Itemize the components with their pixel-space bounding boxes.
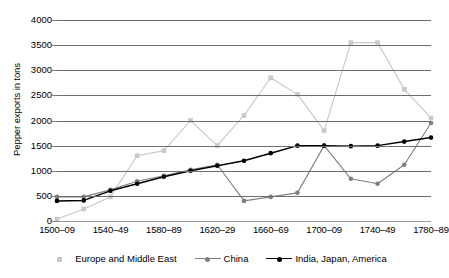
y-axis-tick-label: 1000 xyxy=(14,166,52,176)
data-point xyxy=(375,182,380,187)
x-axis-tick-label: 1620–29 xyxy=(199,224,235,235)
y-axis-tick-mark xyxy=(52,146,57,147)
x-axis-tick-label: 1580–89 xyxy=(146,224,182,235)
y-axis-tick-mark xyxy=(52,70,57,71)
data-point xyxy=(81,198,86,203)
gridline xyxy=(57,121,431,122)
data-point xyxy=(108,189,113,194)
data-point xyxy=(242,199,247,204)
data-point xyxy=(402,87,407,92)
data-point xyxy=(268,75,273,80)
x-axis-tick-labels: 1500–091540–491580–891620–291660–691700–… xyxy=(57,224,431,238)
legend-swatch-icon xyxy=(195,254,221,264)
series-line xyxy=(57,43,431,219)
data-point xyxy=(135,153,140,158)
y-axis-tick-labels: 05001000150020002500300035004000 xyxy=(12,0,52,278)
data-point xyxy=(322,128,327,133)
y-axis-tick-label: 3000 xyxy=(14,66,52,76)
data-point xyxy=(81,207,86,212)
x-axis-tick-label: 1780–89 xyxy=(413,224,449,235)
y-axis-tick-label: 3500 xyxy=(14,40,52,50)
y-axis-tick-mark xyxy=(52,171,57,172)
gridline xyxy=(57,20,431,21)
y-axis-tick-mark xyxy=(52,95,57,96)
gridline xyxy=(57,221,431,222)
data-point xyxy=(55,199,60,204)
x-axis-tick-label: 1500–09 xyxy=(39,224,75,235)
data-point xyxy=(268,151,273,156)
gridline xyxy=(57,70,431,71)
data-point xyxy=(429,135,434,140)
plot-area xyxy=(57,20,431,221)
gridline xyxy=(57,45,431,46)
legend-item[interactable]: India, Japan, America xyxy=(266,253,386,264)
data-point xyxy=(295,191,300,196)
data-point xyxy=(135,182,140,187)
y-axis-tick-label: 4000 xyxy=(14,15,52,25)
data-point xyxy=(162,148,167,153)
gridline xyxy=(57,171,431,172)
y-axis-tick-mark xyxy=(52,121,57,122)
data-point xyxy=(402,162,407,167)
x-axis-tick-label: 1740–49 xyxy=(360,224,396,235)
data-point xyxy=(349,176,354,181)
data-point xyxy=(242,158,247,163)
data-point xyxy=(215,163,220,168)
legend-item[interactable]: Europe and Middle East xyxy=(46,253,176,264)
gridline xyxy=(57,196,431,197)
legend-swatch-icon xyxy=(266,254,292,264)
chart-legend: Europe and Middle EastChinaIndia, Japan,… xyxy=(0,253,433,264)
data-point xyxy=(402,139,407,144)
legend-label: Europe and Middle East xyxy=(75,253,176,264)
y-axis-tick-mark xyxy=(52,45,57,46)
y-axis-tick-mark xyxy=(52,20,57,21)
data-point xyxy=(242,113,247,118)
y-axis-tick-label: 2500 xyxy=(14,91,52,101)
gridline xyxy=(57,95,431,96)
legend-swatch-icon xyxy=(46,254,72,264)
gridline xyxy=(57,146,431,147)
y-axis-tick-label: 500 xyxy=(14,191,52,201)
legend-item[interactable]: China xyxy=(195,253,249,264)
x-axis-tick-label: 1660–69 xyxy=(253,224,289,235)
x-axis-tick-label: 1540–49 xyxy=(93,224,129,235)
data-point xyxy=(162,174,167,179)
legend-label: China xyxy=(224,253,249,264)
y-axis-tick-label: 2000 xyxy=(14,116,52,126)
y-axis-tick-mark xyxy=(52,221,57,222)
x-axis-tick-label: 1700–09 xyxy=(306,224,342,235)
series-line xyxy=(57,138,431,201)
legend-label: India, Japan, America xyxy=(295,253,386,264)
y-axis-tick-label: 1500 xyxy=(14,141,52,151)
y-axis-tick-mark xyxy=(52,196,57,197)
series-europe-and-middle-east xyxy=(55,40,434,221)
